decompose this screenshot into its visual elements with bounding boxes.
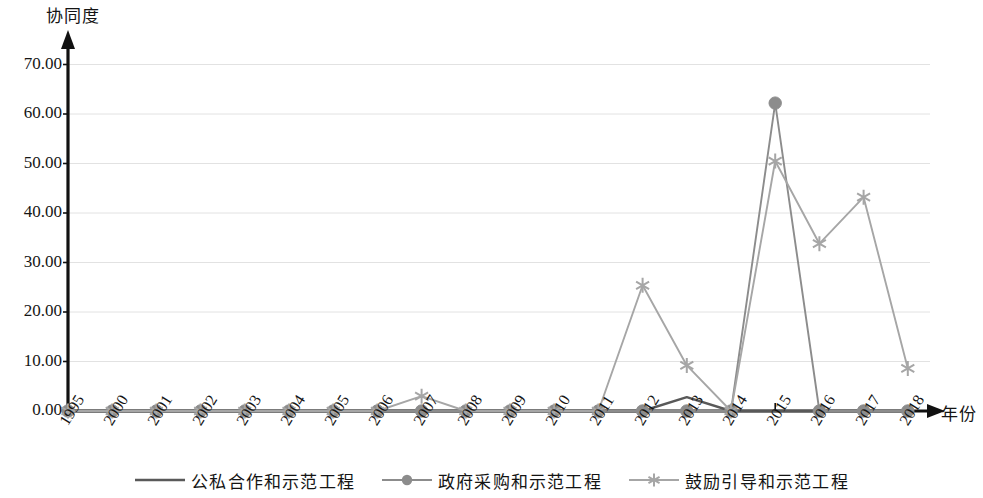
y-tick-label: 10.00 [0,351,62,371]
legend-item-2[interactable]: 政府采购和示范工程 [381,468,602,493]
legend-marker-star-icon [628,472,680,488]
legend-marker-circle-icon [381,472,433,488]
data-point [769,97,781,109]
chart-container: 协同度 年份 70.0060.0050.0040.0030.0020.0010.… [0,0,983,498]
y-tick-label: 60.00 [0,103,62,123]
gridlines [66,65,930,362]
data-point [769,154,782,169]
legend-marker-line-icon [134,472,186,488]
legend-item-1[interactable]: 公私合作和示范工程 [134,468,355,493]
y-tick-label: 70.00 [0,54,62,74]
plot-area [0,0,983,498]
y-tick-label: 30.00 [0,252,62,272]
legend-item-3[interactable]: 鼓励引导和示范工程 [628,468,849,493]
y-tick-label: 40.00 [0,202,62,222]
series-line-2 [62,97,914,417]
chart-legend: 公私合作和示范工程政府采购和示范工程鼓励引导和示范工程 [0,462,983,498]
y-tick-label: 0.00 [0,400,62,420]
legend-label: 公私合作和示范工程 [191,468,355,493]
y-tick-label: 20.00 [0,301,62,321]
data-point [636,278,649,293]
legend-label: 政府采购和示范工程 [438,468,602,493]
data-point [901,361,914,376]
series-line-3 [62,154,915,419]
legend-label: 鼓励引导和示范工程 [685,468,849,493]
y-tick-label: 50.00 [0,153,62,173]
